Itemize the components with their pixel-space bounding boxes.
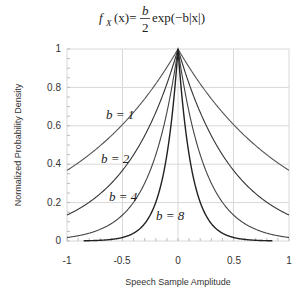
svg-text:X: X [105,18,112,28]
label-b1: b = 1 [106,107,134,122]
y-axis-label: Normalized Probability Density [13,83,23,206]
svg-text:f: f [99,10,105,25]
x-axis-label: Speech Sample Amplitude [125,277,231,287]
svg-text:-1: -1 [63,255,72,266]
svg-text:0.2: 0.2 [47,197,61,208]
svg-text:-0.5: -0.5 [113,255,131,266]
x-tick-labels: -1 -0.5 0 0.5 1 [63,255,293,266]
svg-text:1: 1 [55,43,61,54]
svg-text:0.5: 0.5 [227,255,241,266]
svg-text:0.6: 0.6 [47,120,61,131]
laplacian-pdf-chart: f X (x)= b 2 exp(−b|x|) b = 1 b = 2 b = … [0,0,306,300]
formula: f X (x)= b 2 exp(−b|x|) [99,3,205,35]
svg-text:0.4: 0.4 [47,158,61,169]
y-tick-labels: 0 0.2 0.4 0.6 0.8 1 [47,43,61,246]
svg-text:0: 0 [175,255,181,266]
label-b4: b = 4 [109,189,138,204]
label-b2: b = 2 [101,151,130,166]
svg-text:0.8: 0.8 [47,82,61,93]
svg-text:1: 1 [286,255,292,266]
svg-text:0: 0 [55,235,61,246]
label-b8: b = 8 [156,208,185,223]
svg-text:exp(−b|x|): exp(−b|x|) [152,10,205,25]
svg-text:(x)=: (x)= [114,10,137,25]
svg-text:b: b [142,3,149,18]
svg-text:2: 2 [142,20,149,35]
